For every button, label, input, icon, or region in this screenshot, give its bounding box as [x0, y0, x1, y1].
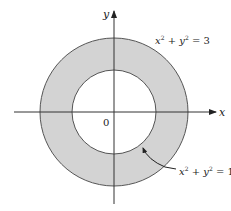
origin-label: 0: [103, 117, 109, 128]
x-axis-label: x: [219, 106, 226, 119]
outer-circle-equation: x2 + y2 = 3: [155, 34, 210, 46]
annulus-diagram: x y 0 x2 + y2 = 3 x2 + y2 = 1: [0, 0, 231, 211]
y-axis-label: y: [102, 8, 110, 21]
inner-circle-equation: x2 + y2 = 1: [179, 165, 231, 177]
